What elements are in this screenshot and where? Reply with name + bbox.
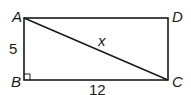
vertex-label-c: C [172, 73, 183, 90]
rectangle-diagram: A B C D 5 12 x [0, 0, 191, 95]
side-bc-length: 12 [89, 81, 106, 95]
right-angle-marker-icon [24, 74, 30, 80]
side-ab-length: 5 [9, 40, 17, 57]
vertex-label-d: D [172, 8, 183, 25]
diagonal-ac-length: x [97, 32, 106, 49]
diagonal-ac [24, 18, 168, 80]
vertex-label-a: A [11, 8, 22, 25]
vertex-label-b: B [11, 73, 21, 90]
